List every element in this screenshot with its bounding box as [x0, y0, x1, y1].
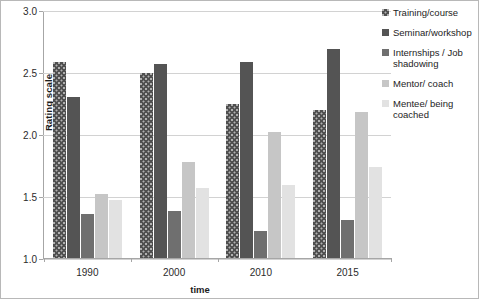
y-tick-label: 1.5	[23, 192, 37, 203]
bar-group: 1990	[44, 11, 131, 258]
bar[interactable]	[182, 162, 195, 258]
bar[interactable]	[67, 97, 80, 258]
y-tick-mark	[39, 135, 43, 136]
bar[interactable]	[268, 132, 281, 258]
bar[interactable]	[226, 104, 239, 258]
plot-area: 1.01.52.02.53.0 1990200020102015	[43, 11, 391, 259]
y-tick-label: 1.0	[23, 254, 37, 265]
x-tick-mark	[391, 258, 392, 262]
x-tick-mark	[218, 258, 219, 262]
legend-item[interactable]: Internships / Job shadowing	[382, 47, 478, 69]
bar[interactable]	[154, 64, 167, 258]
bar[interactable]	[140, 73, 153, 258]
bar-group: 2015	[304, 11, 391, 258]
legend-swatch-icon	[382, 100, 389, 107]
bar[interactable]	[81, 214, 94, 258]
chart-container: Rating scale 1.01.52.02.53.0 19902000201…	[0, 0, 479, 299]
y-tick-label: 2.5	[23, 68, 37, 79]
legend-label: Mentee/ being coached	[393, 98, 478, 120]
bar-group: 2000	[131, 11, 218, 258]
legend-swatch-icon	[382, 29, 389, 36]
bar[interactable]	[109, 200, 122, 258]
x-tick-label: 1990	[44, 267, 131, 278]
y-tick-mark	[39, 197, 43, 198]
legend-swatch-icon	[382, 80, 389, 87]
bar[interactable]	[240, 62, 253, 258]
legend-label: Internships / Job shadowing	[393, 47, 478, 69]
legend-item[interactable]: Training/course	[382, 7, 478, 18]
bar-groups: 1990200020102015	[44, 11, 391, 258]
x-tick-label: 2010	[218, 267, 305, 278]
x-tick-label: 2000	[131, 267, 218, 278]
legend-swatch-icon	[382, 49, 389, 56]
bar[interactable]	[95, 194, 108, 258]
legend-item[interactable]: Mentor/ coach	[382, 78, 478, 89]
bar[interactable]	[369, 167, 382, 258]
y-tick-mark	[39, 73, 43, 74]
bar[interactable]	[168, 211, 181, 258]
bar[interactable]	[196, 188, 209, 258]
y-tick-mark	[39, 259, 43, 260]
bar[interactable]	[355, 112, 368, 258]
legend-label: Training/course	[393, 7, 458, 18]
chart-legend: Training/courseSeminar/workshopInternshi…	[382, 7, 478, 129]
bar[interactable]	[327, 49, 340, 258]
bar-group: 2010	[218, 11, 305, 258]
legend-label: Mentor/ coach	[393, 78, 453, 89]
legend-swatch-icon	[382, 9, 389, 16]
bar[interactable]	[254, 231, 267, 258]
bar[interactable]	[53, 62, 66, 258]
bar[interactable]	[282, 185, 295, 258]
y-tick-mark	[39, 11, 43, 12]
bar[interactable]	[313, 110, 326, 258]
legend-item[interactable]: Mentee/ being coached	[382, 98, 478, 120]
legend-label: Seminar/workshop	[393, 27, 472, 38]
x-tick-label: 2015	[304, 267, 391, 278]
bar[interactable]	[341, 220, 354, 258]
x-tick-mark	[44, 258, 45, 262]
x-axis-title: time	[1, 284, 399, 295]
x-tick-mark	[131, 258, 132, 262]
legend-item[interactable]: Seminar/workshop	[382, 27, 478, 38]
y-tick-label: 2.0	[23, 130, 37, 141]
y-tick-label: 3.0	[23, 6, 37, 17]
